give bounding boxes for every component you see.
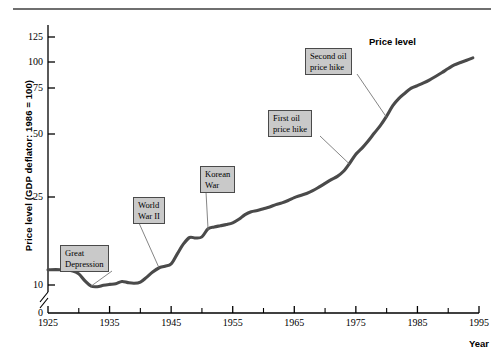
series-label-price-level: Price level (369, 36, 416, 47)
annotation-leader-first-oil-hike (320, 136, 350, 164)
annotation-leader-lines (91, 74, 387, 286)
plot-area (0, 0, 497, 356)
y-axis-tick-marks (48, 37, 55, 285)
x-axis-tick-marks (48, 306, 479, 313)
chart-figure: Price level (GDP deflator: 1986 = 100) Y… (0, 0, 497, 356)
annotation-leader-world-war-ii (139, 223, 159, 267)
annotation-second-oil-hike: Second oil price hike (305, 48, 352, 75)
annotation-korean-war: Korean War (200, 166, 235, 193)
annotation-great-depression: Great Depression (60, 245, 109, 272)
annotation-world-war-ii: World War II (133, 197, 165, 224)
y-axis-break-marker (40, 292, 48, 308)
annotation-first-oil-hike: First oil price hike (268, 110, 312, 137)
annotation-leader-korean-war (206, 192, 208, 230)
price-level-line (48, 58, 473, 287)
annotation-leader-second-oil-hike (357, 74, 387, 117)
